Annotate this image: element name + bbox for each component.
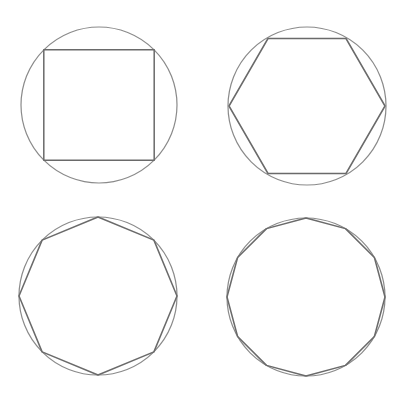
square	[44, 50, 154, 160]
circle-2	[228, 27, 386, 185]
figure-dodecagon	[227, 218, 385, 376]
figure-square	[21, 27, 177, 183]
hexagon	[229, 39, 385, 174]
octagon	[19, 217, 177, 375]
figure-hexagon	[228, 27, 386, 185]
dodecagon	[227, 218, 385, 376]
circle-4	[227, 218, 385, 376]
circle-3	[19, 217, 177, 375]
figure-octagon	[19, 217, 177, 375]
polygon-figures	[0, 0, 400, 393]
